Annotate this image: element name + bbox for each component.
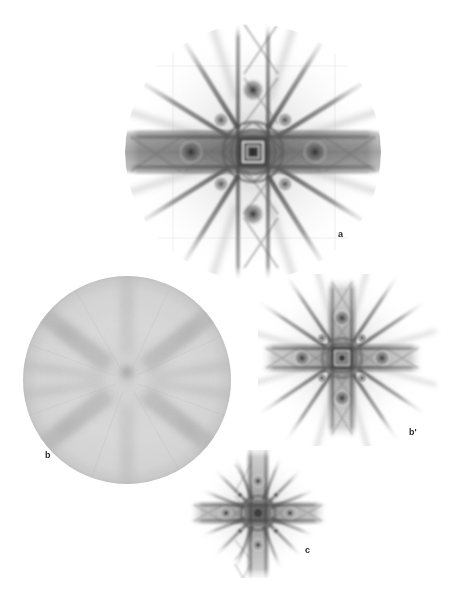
panel-c-image xyxy=(180,450,336,578)
panel-a: a xyxy=(113,6,403,302)
panel-label-c: c xyxy=(305,546,310,555)
panel-label-b: b xyxy=(45,451,51,460)
panel-label-b-prime: b' xyxy=(409,428,417,437)
panel-b-prime-image xyxy=(258,274,444,446)
panel-b-prime: b' xyxy=(258,274,444,446)
panel-label-a: a xyxy=(338,230,343,239)
panel-c: c xyxy=(180,450,336,578)
panel-a-image xyxy=(113,6,403,302)
diffraction-figure: a xyxy=(0,0,451,601)
